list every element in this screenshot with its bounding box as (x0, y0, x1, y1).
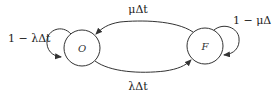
state-f: F (187, 28, 223, 64)
self-loop-f-label: 1 − μΔ (233, 14, 271, 27)
transition-f-to-o-label: μΔt (128, 3, 148, 16)
transition-o-to-f-label: λΔt (128, 80, 148, 93)
state-diagram: O F μΔt λΔt 1 − λΔt 1 − μΔ (0, 0, 277, 96)
state-o-label: O (78, 43, 86, 54)
self-loop-f-arrow (214, 26, 239, 55)
transition-o-to-f-arrow (95, 60, 191, 72)
self-loop-o-label: 1 − λΔt (8, 32, 51, 45)
state-o: O (64, 30, 100, 66)
transition-f-to-o-arrow (96, 21, 193, 34)
state-f-label: F (201, 41, 210, 52)
